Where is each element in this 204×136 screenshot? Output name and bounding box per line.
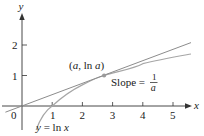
y-tick-label-1: 1 bbox=[12, 70, 18, 82]
point-label: (a, ln a) bbox=[69, 59, 104, 72]
slope-prefix: Slope = bbox=[111, 76, 145, 88]
tangent-point bbox=[102, 73, 106, 77]
slope-denominator: a bbox=[151, 82, 156, 93]
axes bbox=[2, 13, 192, 130]
y-axis-arrow-icon bbox=[19, 13, 24, 20]
x-tick-label-2: 2 bbox=[80, 109, 86, 121]
curve-label: y = ln x bbox=[35, 121, 69, 133]
tangent-line-diagram: 1 2 3 4 5 0 1 2 x y (a, ln a) Slope = 1 … bbox=[0, 0, 204, 136]
x-axis-arrow-icon bbox=[185, 103, 192, 108]
x-tick-label-1: 1 bbox=[50, 109, 56, 121]
x-axis-label: x bbox=[193, 99, 199, 111]
y-axis-label: y bbox=[18, 0, 24, 12]
tangent-line bbox=[5, 43, 191, 113]
x-tick-label-4: 4 bbox=[140, 109, 146, 121]
slope-label: Slope = 1 a bbox=[111, 72, 158, 93]
origin-label: 0 bbox=[11, 109, 17, 121]
y-tick-label-2: 2 bbox=[12, 39, 18, 51]
x-tick-label-3: 3 bbox=[110, 109, 116, 121]
slope-numerator: 1 bbox=[152, 72, 157, 82]
x-tick-label-5: 5 bbox=[170, 109, 176, 121]
